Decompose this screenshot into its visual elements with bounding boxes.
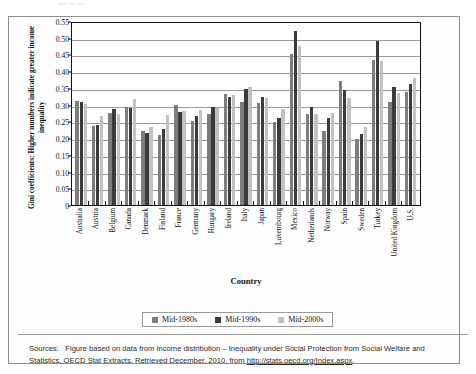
x-tick-label: U.S. [408, 208, 415, 221]
x-axis-title: Country [71, 276, 421, 286]
y-axis-title: Gini coefficients: Higher numbers indica… [27, 22, 47, 212]
x-tick: United Kingdom [387, 208, 404, 274]
bar[interactable] [112, 109, 115, 205]
bar[interactable] [339, 81, 342, 205]
bar[interactable] [162, 129, 165, 205]
bar[interactable] [405, 92, 408, 205]
bar[interactable] [129, 108, 132, 205]
x-tick-label: Mexico [292, 208, 299, 230]
bar[interactable] [117, 114, 120, 205]
source-url-link[interactable]: http://stats.oecd.org/Index.aspx [247, 356, 353, 365]
bar[interactable] [166, 115, 169, 205]
bar[interactable] [178, 112, 181, 205]
bar[interactable] [96, 125, 99, 205]
bar[interactable] [347, 98, 350, 205]
bar[interactable] [244, 89, 247, 205]
x-tick: Sweden [354, 208, 371, 274]
x-tick: Canada [122, 208, 139, 274]
bar[interactable] [273, 122, 276, 205]
bar[interactable] [392, 87, 395, 205]
bar[interactable] [224, 94, 227, 205]
bar[interactable] [331, 113, 334, 205]
bar[interactable] [380, 61, 383, 205]
bar[interactable] [364, 127, 367, 205]
bar[interactable] [232, 95, 235, 205]
y-tick-label: 0.30 [56, 101, 69, 110]
bar-group [139, 23, 155, 205]
bar[interactable] [92, 126, 95, 205]
x-tick: Finland [155, 208, 172, 274]
bar[interactable] [281, 109, 284, 205]
x-tick: Belgium [105, 208, 122, 274]
x-tick-label: Denmark [143, 208, 150, 235]
y-axis-title-text: Gini coefficients: Higher numbers indica… [27, 22, 47, 212]
bar[interactable] [182, 111, 185, 205]
x-tick-label: United Kingdom [392, 208, 399, 257]
bar[interactable] [265, 98, 268, 205]
x-tick: U.S. [404, 208, 421, 274]
bar[interactable] [191, 121, 194, 205]
x-tick-label: Italy [242, 208, 249, 221]
bar[interactable] [376, 41, 379, 205]
bar[interactable] [290, 54, 293, 205]
x-tick-label: Germany [193, 208, 200, 235]
bar[interactable] [125, 107, 128, 205]
bar[interactable] [195, 116, 198, 205]
x-tick-label: Belgium [110, 208, 117, 233]
bar[interactable] [314, 114, 317, 205]
bar[interactable] [372, 60, 375, 205]
bar[interactable] [322, 131, 325, 205]
bar[interactable] [388, 102, 391, 205]
bar[interactable] [199, 110, 202, 205]
bar[interactable] [141, 131, 144, 205]
x-tick-label: Austria [93, 208, 100, 229]
bar-group [402, 23, 418, 205]
legend-item[interactable]: Mid-2000s [278, 315, 323, 324]
bar[interactable] [355, 139, 358, 205]
bar[interactable] [343, 90, 346, 205]
x-axis-tick-labels: AustraliaAustriaBelgiumCanadaDenmarkFinl… [71, 208, 421, 274]
y-tick-label: 0.05 [56, 185, 69, 194]
bar[interactable] [207, 114, 210, 205]
bar-group [89, 23, 105, 205]
x-tick-label: Ireland [226, 208, 233, 228]
bar[interactable] [277, 118, 280, 205]
bar[interactable] [211, 107, 214, 205]
x-tick-label: France [176, 208, 183, 228]
source-text: Figure based on data from Income distrib… [29, 344, 425, 365]
y-tick-label: 0.15 [56, 151, 69, 160]
legend-swatch-icon [215, 317, 221, 323]
bar[interactable] [158, 135, 161, 205]
bar[interactable] [84, 104, 87, 205]
plot-axes [71, 22, 421, 206]
bar[interactable] [306, 114, 309, 205]
bar[interactable] [75, 101, 78, 205]
bar[interactable] [215, 108, 218, 205]
x-tick: Australia [72, 208, 89, 274]
x-tick-label: Canada [126, 208, 133, 230]
bar[interactable] [360, 134, 363, 205]
bar[interactable] [413, 78, 416, 205]
bar[interactable] [240, 102, 243, 205]
legend-item[interactable]: Mid-1990s [215, 315, 260, 324]
bar[interactable] [257, 103, 260, 205]
legend-item[interactable]: Mid-1980s [152, 315, 197, 324]
bar[interactable] [298, 46, 301, 205]
bar[interactable] [108, 113, 111, 205]
bar[interactable] [397, 93, 400, 205]
bar[interactable] [409, 84, 412, 205]
bar[interactable] [294, 31, 297, 205]
x-tick: Japan [254, 208, 271, 274]
bar[interactable] [248, 87, 251, 205]
bar[interactable] [310, 107, 313, 205]
x-tick-label: Netherlands [309, 208, 316, 243]
bar[interactable] [145, 133, 148, 205]
bar[interactable] [228, 97, 231, 205]
bar[interactable] [100, 116, 103, 205]
bar[interactable] [149, 127, 152, 205]
bar[interactable] [133, 99, 136, 205]
bar[interactable] [327, 118, 330, 205]
bar[interactable] [80, 102, 83, 205]
bar[interactable] [261, 97, 264, 205]
bar[interactable] [174, 105, 177, 205]
